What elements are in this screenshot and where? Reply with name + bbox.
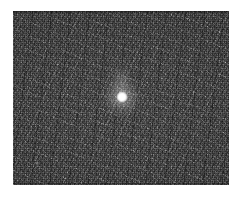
image-panel [13, 11, 229, 185]
figure-canvas [0, 0, 244, 202]
detector-field-background [13, 11, 229, 185]
